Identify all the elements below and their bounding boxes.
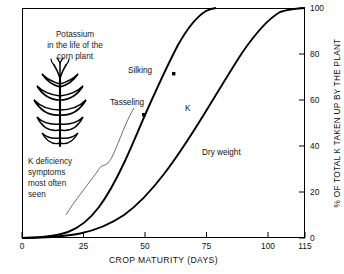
chart-figure: Potassium in the life of the corn plant … — [0, 0, 344, 274]
x-tick-0: 0 — [9, 241, 35, 251]
x-tick-75: 75 — [194, 241, 220, 251]
tasseling-label: Tasseling — [110, 98, 144, 107]
y-tick-40: 40 — [310, 141, 332, 151]
y-axis-title: % OF TOTAL K TAKEN UP BY THE PLANT — [333, 8, 344, 238]
x-tick-100: 100 — [255, 241, 281, 251]
k-deficiency-annotation: K deficiency symptoms most often seen — [28, 156, 108, 200]
chart-title-annotation: Potassium in the life of the corn plant — [20, 29, 130, 62]
y-tick-80: 80 — [310, 49, 332, 59]
y-tick-100: 100 — [310, 3, 332, 13]
x-axis-title: CROP MATURITY (DAYS) — [22, 255, 305, 265]
y-tick-60: 60 — [310, 95, 332, 105]
x-tick-50: 50 — [132, 241, 158, 251]
silking-label: Silking — [128, 66, 152, 75]
k-curve-label: K — [185, 104, 190, 113]
y-tick-0: 0 — [310, 233, 332, 243]
x-tick-25: 25 — [71, 241, 97, 251]
y-tick-20: 20 — [310, 187, 332, 197]
dry-weight-curve-label: Dry weight — [202, 148, 241, 157]
